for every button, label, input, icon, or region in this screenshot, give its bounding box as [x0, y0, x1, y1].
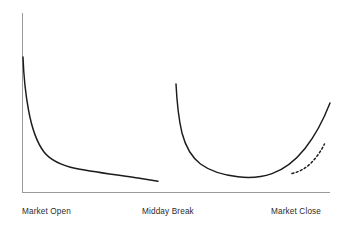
afternoon-session-curve [176, 84, 330, 177]
morning-session-curve [23, 57, 158, 181]
volatility-smile-chart: Market Open Midday Break Market Close [0, 0, 346, 233]
x-tick-label-market-close: Market Close [271, 206, 321, 217]
x-tick-label-midday-break: Midday Break [142, 206, 194, 217]
projected-close-curve [292, 144, 325, 174]
chart-canvas [0, 0, 346, 233]
x-tick-label-market-open: Market Open [22, 206, 71, 217]
